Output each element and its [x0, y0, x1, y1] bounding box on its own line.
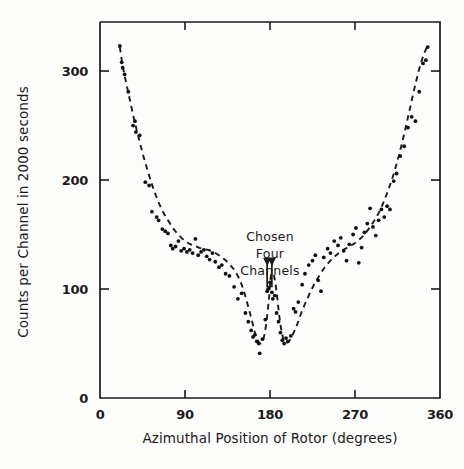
- x-axis-title: Azimuthal Position of Rotor (degrees): [142, 430, 397, 446]
- data-point: [380, 208, 384, 212]
- data-point: [322, 256, 326, 260]
- data-point: [392, 179, 396, 183]
- data-point: [202, 248, 206, 252]
- x-tick-label: 360: [427, 407, 453, 422]
- data-point: [414, 119, 418, 123]
- data-point: [410, 115, 414, 119]
- data-point: [123, 72, 127, 76]
- data-point: [336, 244, 340, 248]
- data-point: [220, 263, 224, 267]
- data-point: [316, 278, 320, 282]
- data-point: [303, 272, 307, 276]
- data-point: [342, 249, 346, 253]
- data-point: [143, 180, 147, 184]
- data-point: [273, 294, 277, 298]
- data-point: [227, 274, 231, 278]
- data-point: [365, 222, 369, 226]
- data-point: [150, 210, 154, 214]
- data-point: [339, 236, 343, 240]
- data-point: [307, 263, 311, 267]
- data-point: [326, 247, 330, 251]
- data-point: [244, 311, 248, 315]
- data-point: [294, 310, 298, 314]
- data-point: [406, 126, 410, 130]
- data-point: [319, 289, 323, 293]
- data-point: [258, 351, 262, 355]
- data-point: [253, 333, 257, 337]
- data-point: [236, 297, 240, 301]
- data-point: [224, 272, 228, 276]
- data-point: [421, 62, 425, 66]
- annotation-line: Channels: [240, 263, 299, 278]
- data-point: [120, 60, 124, 64]
- x-tick-label: 90: [176, 407, 194, 422]
- data-point: [270, 290, 274, 294]
- data-point: [417, 90, 421, 94]
- data-point: [210, 251, 214, 255]
- data-point: [131, 124, 135, 128]
- data-point: [277, 320, 281, 324]
- x-axis-tick-labels: 090180270360: [96, 407, 454, 422]
- data-point: [155, 215, 159, 219]
- figure-container: 090180270360 0100200300 Azimuthal Positi…: [0, 0, 464, 469]
- data-points: [118, 44, 430, 355]
- data-point: [313, 253, 317, 257]
- data-point: [351, 233, 355, 237]
- data-point: [388, 208, 392, 212]
- data-point: [205, 254, 209, 258]
- data-point: [329, 251, 333, 255]
- data-point: [292, 307, 296, 311]
- data-point: [118, 44, 122, 48]
- y-tick-label: 300: [62, 64, 88, 79]
- data-point: [357, 261, 361, 265]
- data-point: [133, 119, 137, 123]
- data-point: [296, 300, 300, 304]
- data-point: [249, 329, 253, 333]
- data-point: [395, 172, 399, 176]
- data-point: [311, 259, 315, 263]
- data-point: [360, 246, 364, 250]
- data-point: [345, 259, 349, 263]
- data-point: [166, 232, 170, 236]
- x-axis-ticks: [185, 22, 355, 398]
- data-point: [271, 297, 275, 301]
- data-point: [174, 245, 178, 249]
- data-point: [398, 154, 402, 158]
- data-point: [196, 253, 200, 257]
- scatter-plot: 090180270360 0100200300 Azimuthal Positi…: [0, 0, 464, 469]
- data-point: [371, 225, 375, 229]
- data-point: [424, 58, 428, 62]
- data-point: [138, 133, 142, 137]
- y-tick-label: 100: [62, 282, 88, 297]
- data-point: [157, 218, 161, 222]
- data-point: [126, 90, 130, 94]
- data-point: [261, 337, 265, 341]
- data-point: [121, 66, 125, 70]
- data-point: [263, 318, 267, 322]
- x-tick-label: 270: [342, 407, 368, 422]
- data-point: [182, 247, 186, 251]
- data-point: [147, 184, 151, 188]
- data-point: [266, 287, 270, 291]
- y-axis-title: Counts per Channel in 2000 seconds: [15, 86, 31, 338]
- data-point: [300, 283, 304, 287]
- x-tick-label: 0: [96, 407, 105, 422]
- data-point: [176, 239, 180, 243]
- data-point: [289, 334, 293, 338]
- data-point: [282, 342, 286, 346]
- data-point: [332, 239, 336, 243]
- y-tick-label: 200: [62, 173, 88, 188]
- data-point: [402, 144, 406, 148]
- data-point: [286, 339, 290, 343]
- data-point: [191, 251, 195, 255]
- data-point: [213, 260, 217, 264]
- data-point: [377, 218, 381, 222]
- data-point: [246, 320, 250, 324]
- data-point: [257, 342, 261, 346]
- y-axis-tick-labels: 0100200300: [62, 64, 89, 406]
- data-point: [280, 338, 284, 342]
- data-point: [169, 244, 173, 248]
- data-point: [134, 130, 138, 134]
- y-tick-label: 0: [79, 391, 88, 406]
- data-point: [385, 204, 389, 208]
